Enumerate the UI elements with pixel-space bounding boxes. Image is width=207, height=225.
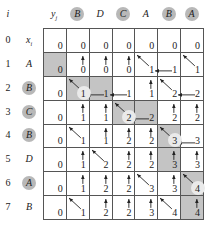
row-index-7: 7 [2,200,14,214]
cell-value: 0 [58,112,63,123]
column-header-5: B [157,7,180,21]
table-cell: 2 [90,172,113,196]
cell-value: 0 [58,88,63,99]
arrow-up-icon [90,53,113,77]
table-cell: 4 [181,172,204,196]
table-cell: 0 [90,29,113,53]
arrow-up-icon [67,148,90,172]
cell-value: 2 [126,135,131,146]
cell-value: 4 [195,183,200,194]
arrow-up-icon [135,148,158,172]
column-header-2: D [89,7,112,21]
cell-value: 0 [81,40,86,51]
cell-value: 2 [172,112,177,123]
arrow-up-icon [135,196,158,220]
table-cell: 3 [158,148,181,172]
cell-value: 0 [58,159,63,170]
table-cell: 2 [113,125,136,149]
arrow-diag-icon [135,53,158,77]
table-cell: 1 [67,196,90,220]
table-cell: 0 [135,29,158,53]
table-cell: 3 [158,172,181,196]
table-cell: 1 [90,125,113,149]
arrow-left-icon [135,101,158,125]
cell-value: 1 [195,64,200,75]
arrow-diag-icon [158,196,181,220]
table-cell: 1 [90,101,113,125]
arrow-up-icon [158,101,181,125]
table-cell: 2 [135,101,158,125]
table-cell: 2 [158,101,181,125]
arrow-up-icon [113,148,136,172]
table-cell: 0 [67,53,90,77]
table-cell: 2 [113,172,136,196]
cell-value: 4 [195,207,200,218]
table-cell: 1 [135,77,158,101]
arrow-up-icon [67,101,90,125]
cell-value: 0 [126,40,131,51]
table-cell: 2 [113,101,136,125]
row-index-3: 3 [2,105,14,119]
arrow-up-icon [90,172,113,196]
arrow-up-icon [90,125,113,149]
table-cell: 2 [135,148,158,172]
cell-value: 3 [195,135,200,146]
table-cell: 0 [90,53,113,77]
arrow-diag-icon [135,172,158,196]
arrow-up-icon [135,77,158,101]
arrow-up-icon [67,53,90,77]
table-cell: 0 [44,29,67,53]
table-cell: 1 [135,53,158,77]
table-cell: 0 [44,172,67,196]
arrow-diag-icon [158,77,181,101]
arrow-left-icon [90,77,113,101]
table-cell: 0 [67,29,90,53]
cell-value: 0 [104,64,109,75]
table-cell: 1 [67,125,90,149]
column-header-6: A [180,7,203,21]
table-cell: 1 [67,77,90,101]
table-cell: 2 [158,77,181,101]
table-cell: 1 [158,53,181,77]
cell-value: 2 [104,183,109,194]
cell-value: 1 [81,207,86,218]
row-label-2: B [20,81,38,95]
cell-value: 2 [126,207,131,218]
table-cell: 3 [135,196,158,220]
i-header: i [2,7,14,21]
table-cell: 3 [135,172,158,196]
row-index-0: 0 [2,33,14,47]
arrow-up-icon [113,196,136,220]
table-cell: 2 [113,196,136,220]
table-cell: 0 [44,148,67,172]
table-cell: 0 [181,29,204,53]
arrow-diag-icon [90,148,113,172]
table-cell: 0 [113,29,136,53]
cell-value: 3 [172,183,177,194]
row-label-6: A [20,176,38,190]
cell-value: 0 [58,207,63,218]
table-cell: 1 [90,77,113,101]
arrow-up-icon [67,172,90,196]
cell-value: 2 [104,159,109,170]
row-label-0: xi [20,33,38,51]
cell-value: 1 [149,64,154,75]
row-label-5: D [20,152,38,166]
table-cell: 0 [158,29,181,53]
lcs-table: 0000000000011101111220112222011223301222… [43,28,204,220]
cell-value: 2 [126,183,131,194]
table-cell: 2 [181,77,204,101]
table-cell: 0 [44,196,67,220]
row-label-7: B [20,200,38,214]
cell-value: 2 [195,112,200,123]
arrow-left-icon [158,53,181,77]
arrow-up-icon [181,101,204,125]
table-cell: 2 [90,196,113,220]
arrow-diag-icon [67,125,90,149]
row-index-2: 2 [2,81,14,95]
cell-value: 0 [195,40,200,51]
cell-value: 3 [195,159,200,170]
row-index-5: 5 [2,152,14,166]
table-cell: 0 [44,125,67,149]
cell-value: 1 [104,88,109,99]
